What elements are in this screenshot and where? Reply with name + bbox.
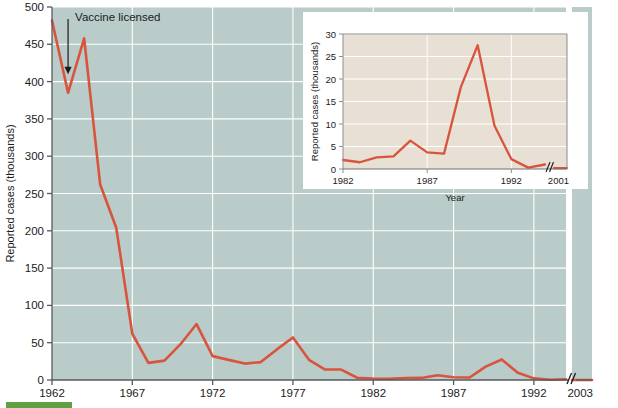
inset-y-tick-label: 10 xyxy=(325,119,336,130)
figure-container: 0501001502002503003504004505001962196719… xyxy=(0,0,618,408)
main-y-tick-label: 500 xyxy=(25,1,44,13)
inset-y-tick-label: 30 xyxy=(325,29,336,40)
inset-y-tick-label: 20 xyxy=(325,74,336,85)
measles-reported-cases-figure: 0501001502002503003504004505001962196719… xyxy=(0,0,618,408)
inset-x-tick-label: 1982 xyxy=(332,175,353,186)
inset-y-tick-label: 15 xyxy=(325,96,336,107)
main-y-tick-label: 200 xyxy=(25,225,44,237)
main-y-tick-label: 350 xyxy=(25,113,44,125)
main-y-tick-label: 100 xyxy=(25,299,44,311)
main-y-tick-label: 400 xyxy=(25,76,44,88)
main-x-tick-label-end: 2003 xyxy=(567,387,593,399)
main-x-tick-label: 1977 xyxy=(280,387,306,399)
main-y-tick-label: 0 xyxy=(38,374,44,386)
inset-x-tick-label: 1992 xyxy=(501,175,522,186)
main-x-tick-label: 1987 xyxy=(441,387,467,399)
main-y-tick-label: 150 xyxy=(25,262,44,274)
inset-x-axis-label: Year xyxy=(445,192,464,203)
main-y-axis-label: Reported cases (thousands) xyxy=(4,124,16,262)
axis-break-slash xyxy=(567,373,572,384)
main-y-tick-label: 300 xyxy=(25,150,44,162)
caption-accent-bar xyxy=(6,402,72,408)
main-y-ticks: 050100150200250300350400450500 xyxy=(25,1,52,386)
main-y-tick-label: 450 xyxy=(25,38,44,50)
main-x-tick-label: 1967 xyxy=(120,387,146,399)
caption-strip xyxy=(0,400,618,408)
inset-y-tick-label: 25 xyxy=(325,51,336,62)
main-y-tick-label: 250 xyxy=(25,188,44,200)
main-x-tick-label: 1972 xyxy=(200,387,226,399)
inset-y-tick-label: 5 xyxy=(331,141,336,152)
inset-x-tick-label-end: 2001 xyxy=(548,175,569,186)
inset-chart: 0510152025301982198719922001Reported cas… xyxy=(303,12,588,203)
inset-y-tick-label: 0 xyxy=(331,164,336,175)
inset-x-tick-label: 1987 xyxy=(417,175,438,186)
main-y-tick-label: 50 xyxy=(31,337,44,349)
main-x-ticks: 19621967197219771982198719922003 xyxy=(39,380,593,399)
main-x-tick-label: 1962 xyxy=(39,387,65,399)
annotation-label: Vaccine licensed xyxy=(75,11,160,23)
inset-y-axis-label: Reported cases (thousands) xyxy=(309,42,320,161)
main-x-tick-label: 1982 xyxy=(360,387,386,399)
main-x-tick-label: 1992 xyxy=(521,387,547,399)
